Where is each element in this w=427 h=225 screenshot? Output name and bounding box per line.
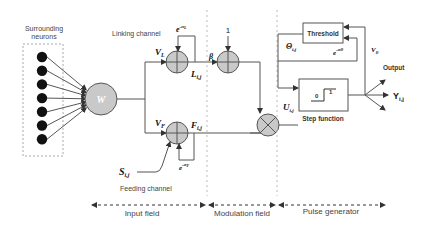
pcnn-diagram: Surrounding neurons W Linking channel VL… xyxy=(0,0,427,225)
output-symbol: Yi,j xyxy=(393,91,404,102)
feeding-channel-label: Feeding channel xyxy=(120,185,172,193)
surrounding-neuron xyxy=(37,120,47,130)
output-label: Output xyxy=(383,64,405,72)
neuron-connection xyxy=(47,57,86,90)
neuron-connection xyxy=(47,102,86,112)
output-arrow-up xyxy=(365,80,385,95)
surrounding-neuron xyxy=(37,79,47,89)
surrounding-neuron xyxy=(37,52,47,62)
linking-channel-label: Linking channel xyxy=(112,30,161,38)
weight-label: W xyxy=(97,94,107,105)
surrounding-neurons-label-1: Surrounding xyxy=(25,25,63,33)
step-function-label: Step function xyxy=(302,115,344,123)
feeding-decay: e-αF xyxy=(179,162,190,172)
neuron-connection xyxy=(47,98,86,99)
surrounding-neuron xyxy=(37,66,47,76)
neuron-connection xyxy=(47,108,86,139)
linking-gain: VL xyxy=(155,47,165,58)
surrounding-neuron xyxy=(37,134,47,144)
threshold-gain: Vθ xyxy=(371,46,379,55)
feeding-output: Fi,j xyxy=(190,120,202,131)
linking-output: Li,j xyxy=(190,69,202,80)
bias-label: 1 xyxy=(226,26,231,35)
neuron-connection xyxy=(47,105,86,126)
neuron-connection xyxy=(47,71,86,93)
feeding-gain: VF xyxy=(155,118,165,129)
internal-activity-label: Ui,j xyxy=(283,102,294,113)
pulse-generator-label: Pulse generator xyxy=(303,207,360,216)
surrounding-neuron xyxy=(37,93,47,103)
surrounding-neurons-label-2: neurons xyxy=(31,33,57,40)
input-field-label: Input field xyxy=(125,209,160,218)
beta-to-multiplier xyxy=(239,62,260,113)
threshold-label: Threshold xyxy=(307,30,338,37)
linking-decay: e-αL xyxy=(176,24,187,34)
surrounding-neuron xyxy=(37,107,47,117)
stimulus-label: Si,j xyxy=(119,166,130,178)
output-arrow-down xyxy=(365,95,385,110)
modulation-field-label: Modulation field xyxy=(214,209,270,218)
beta-label: β xyxy=(208,52,214,61)
theta-label: Θi,j xyxy=(286,42,297,52)
stimulus-line xyxy=(137,142,170,172)
neurons-group xyxy=(37,52,86,145)
neuron-connection xyxy=(47,84,86,95)
threshold-decay: e-αθ xyxy=(333,47,344,57)
